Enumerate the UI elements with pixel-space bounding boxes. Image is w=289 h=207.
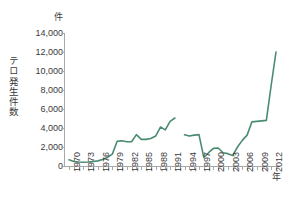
x-axis-tick-label: 2009	[261, 152, 270, 172]
x-axis-tick-label: 1994	[189, 152, 198, 172]
x-axis-tick-label: 2000	[217, 152, 226, 172]
x-axis-tick-label: 1973	[87, 152, 96, 172]
x-axis-title: 年	[272, 170, 281, 183]
x-axis-tick-label: 2006	[246, 152, 255, 172]
x-axis-tick-label: 1985	[145, 152, 154, 172]
x-axis-tick-label: 1982	[131, 152, 140, 172]
x-axis-tick-label: 1979	[116, 152, 125, 172]
x-axis-tick-label: 2012	[275, 152, 284, 172]
x-axis-tick-label: 1997	[203, 152, 212, 172]
x-axis-tick-label: 1976	[102, 152, 111, 172]
x-axis-tick-label: 1988	[160, 152, 169, 172]
x-axis-tick-label: 2003	[232, 152, 241, 172]
terrorism-incidents-line-chart: 件 テロ発生件数 14,00012,00010,0008,0006,0004,0…	[0, 0, 289, 207]
x-axis-tick-label: 1970	[73, 152, 82, 172]
x-axis-tick-labels: 1970197319761979198219851988199119941997…	[0, 0, 289, 207]
x-axis-tick-label: 1991	[174, 152, 183, 172]
